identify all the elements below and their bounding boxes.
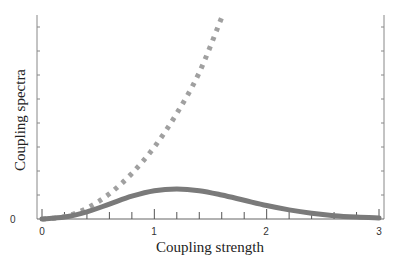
x-tick-label-2: 2 <box>263 226 269 237</box>
x-tick-label-0: 0 <box>39 226 45 237</box>
x-tick-label-3: 3 <box>376 226 382 237</box>
x-tick-label-1: 1 <box>151 226 157 237</box>
chart-canvas: 0 0 1 2 3 Coupling strength Coupling spe… <box>0 0 401 269</box>
x-axis-title: Coupling strength <box>156 239 264 255</box>
y-tick-label-0: 0 <box>10 214 16 225</box>
y-axis-title: Coupling spectra <box>12 69 28 171</box>
series-layer <box>42 17 379 219</box>
